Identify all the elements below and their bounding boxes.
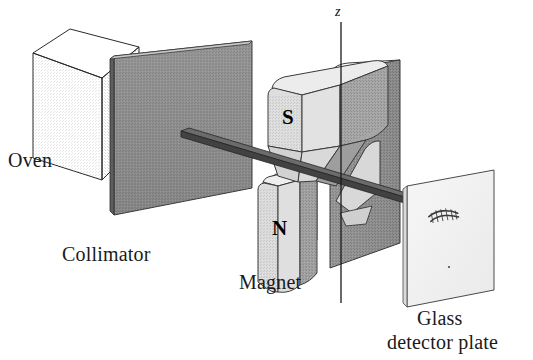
glass-plate-label-line2: detector plate <box>387 331 498 354</box>
collimator-label: Collimator <box>62 243 151 265</box>
glass-plate-label-line1: Glass <box>417 307 462 329</box>
collimator-edge <box>110 56 114 215</box>
magnet-lower-right-texture <box>300 171 317 285</box>
magnet-label: Magnet <box>239 271 302 294</box>
south-pole-label: S <box>282 105 294 129</box>
glass-plate-face <box>407 170 494 307</box>
glass-plate-dot <box>448 266 450 268</box>
figure-canvas: Oven Collimator N <box>0 0 533 360</box>
glass-detector-plate: Glass detector plate <box>387 170 498 354</box>
magnet-upper-main-face <box>302 85 340 152</box>
z-axis-label: z <box>334 4 341 19</box>
collimator-texture <box>114 41 252 215</box>
stern-gerlach-figure: Oven Collimator N <box>0 0 533 360</box>
north-pole-label: N <box>272 216 287 240</box>
oven-label: Oven <box>8 149 52 171</box>
glass-plate-edge <box>403 186 407 307</box>
